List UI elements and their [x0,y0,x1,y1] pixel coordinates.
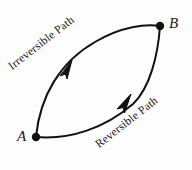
reversible-path-arrowhead [117,94,131,113]
irreversible-path-curve [36,25,160,137]
node-dot-b [156,22,164,30]
node-label-b: B [169,16,178,31]
node-label-a: A [17,129,26,144]
node-dot-a [32,133,40,141]
diagram-canvas: A B Irreversible Path Reversible Path [0,0,192,170]
